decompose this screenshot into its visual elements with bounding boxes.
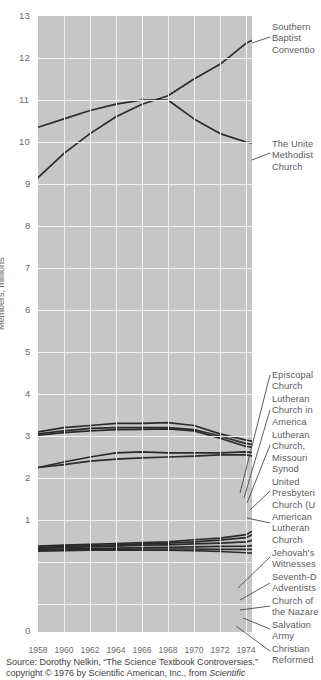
y-tick-8: 8 (25, 220, 30, 231)
chart-figure: Members, millions 13 12 11 10 9 8 7 6 5 … (0, 0, 321, 680)
callout-line: The Unite (272, 139, 313, 150)
x-tick-1972: 1972 (206, 645, 234, 655)
gridline-x-1968 (168, 16, 169, 632)
y-tick-5: 5 (25, 346, 30, 357)
callout-line: Church (272, 535, 312, 546)
gridline-x-1962 (90, 16, 91, 632)
callout-line: Missouri (272, 453, 310, 464)
gridline-x-1972 (220, 16, 221, 632)
y-axis-title: Members, millions (0, 257, 6, 330)
callout-line: Witnesses (272, 559, 316, 570)
callout-line: Christian (272, 644, 314, 655)
plot-area (38, 16, 252, 632)
y-tick-13: 13 (19, 10, 30, 21)
callout-line: Lutheran (272, 430, 310, 441)
gridline-x-1960 (64, 16, 65, 632)
callout-line: Church (U (272, 500, 315, 511)
callout-line: Synod (272, 464, 310, 475)
y-tick-11: 11 (19, 94, 29, 105)
source-note: Source: Dorothy Nelkin, “The Science Tex… (6, 657, 318, 679)
y-tick-2: 2 (25, 472, 30, 483)
gridline-x-1964 (116, 16, 117, 632)
y-tick-12: 12 (19, 52, 30, 63)
leader-southern-baptist (252, 37, 270, 43)
callout-united-presbyterian-church: United Presbyteri Church (U (272, 477, 315, 511)
y-tick-3: 3 (25, 430, 30, 441)
y-tick-7: 7 (25, 262, 30, 273)
callout-line: the Nazare (272, 607, 318, 618)
callout-line: Episcopal (272, 370, 313, 381)
y-tick-1: 1 (25, 514, 30, 525)
x-tick-1960: 1960 (50, 645, 78, 655)
callout-united-methodist-church: The Unite Methodist Church (272, 139, 313, 173)
gridline-x-1966 (142, 16, 143, 632)
leader-united-presbyterian (250, 491, 270, 510)
callout-line: Church, (272, 441, 310, 452)
y-tick-9: 9 (25, 178, 30, 189)
callout-line: America (272, 417, 313, 428)
x-tick-1970: 1970 (180, 645, 208, 655)
callout-american-lutheran-church: American Lutheran Church (272, 512, 312, 546)
callout-line: Church of (272, 596, 318, 607)
y-tick-10: 10 (19, 136, 30, 147)
callout-seventh-day-adventists: Seventh-D Adventists (272, 572, 317, 595)
callout-line: Southern (272, 22, 315, 33)
callout-line: Baptist (272, 33, 315, 44)
callout-line: American (272, 512, 312, 523)
source-line-2: copyright © 1976 by Scientific American,… (6, 668, 318, 679)
source-line-2-text: copyright © 1976 by Scientific American,… (6, 668, 209, 678)
x-tick-1968: 1968 (154, 645, 182, 655)
callout-line: Adventists (272, 583, 317, 594)
callout-line: Church (272, 162, 313, 173)
callout-lutheran-church-missouri-synod: Lutheran Church, Missouri Synod (272, 430, 310, 475)
callout-line: Seventh-D (272, 572, 317, 583)
callout-line: Church (272, 381, 313, 392)
gridline-x-1974 (246, 16, 247, 632)
callout-line: Lutheran (272, 523, 312, 534)
y-tick-0: 0 (25, 625, 30, 636)
gridline-x-1970 (194, 16, 195, 632)
callout-episcopal-church: Episcopal Church (272, 370, 313, 393)
callout-line: Methodist (272, 150, 313, 161)
callout-line: United (272, 477, 315, 488)
callout-line: Church in (272, 405, 313, 416)
x-tick-1966: 1966 (128, 645, 156, 655)
callout-southern-baptist-convention: Southern Baptist Conventio (272, 22, 315, 56)
y-tick-4: 4 (25, 388, 30, 399)
source-publication: Scientific (209, 668, 245, 678)
source-line-1: Source: Dorothy Nelkin, “The Science Tex… (6, 657, 318, 668)
callout-line: Army (272, 631, 311, 642)
callout-line: Jehovah's (272, 548, 316, 559)
x-tick-1958: 1958 (24, 645, 52, 655)
callout-line: Presbyteri (272, 488, 315, 499)
callout-line: Conventio (272, 45, 315, 56)
callout-church-of-the-nazarene: Church of the Nazare (272, 596, 318, 619)
callout-jehovahs-witnesses: Jehovah's Witnesses (272, 548, 316, 571)
y-tick-6: 6 (25, 304, 30, 315)
callout-line: Salvation (272, 620, 311, 631)
callout-salvation-army: Salvation Army (272, 620, 311, 643)
leader-united-methodist (252, 153, 270, 160)
x-tick-1964: 1964 (102, 645, 130, 655)
callout-line: Lutheran (272, 394, 313, 405)
x-tick-1962: 1962 (76, 645, 104, 655)
x-tick-1974: 1974 (232, 645, 260, 655)
callout-lutheran-church-in-america: Lutheran Church in America (272, 394, 313, 428)
